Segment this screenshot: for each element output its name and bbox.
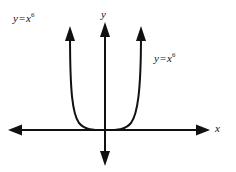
y-axis-bottom-arrowhead	[100, 151, 110, 166]
curve-equation-label-left: y=x6	[13, 13, 34, 24]
graph-canvas	[0, 0, 236, 172]
y-axis-top-arrowhead	[100, 22, 110, 37]
curve-right-arm-arrowhead	[136, 26, 146, 41]
curve-left-arm-arrowhead	[65, 26, 75, 41]
equation-left-operator: =	[18, 12, 26, 24]
equation-right-exponent: 6	[172, 51, 175, 58]
curve-equation-label-right: y=x6	[154, 53, 175, 64]
equation-left-exponent: 6	[31, 11, 34, 18]
x-axis-right-arrowhead	[196, 125, 210, 136]
equation-right-operator: =	[159, 52, 167, 64]
y-axis-label: y	[101, 9, 106, 20]
x-axis-left-arrowhead	[8, 125, 22, 136]
function-graph-figure: y=x6 y=x6 y x	[0, 0, 236, 172]
x-axis-label: x	[215, 123, 220, 134]
